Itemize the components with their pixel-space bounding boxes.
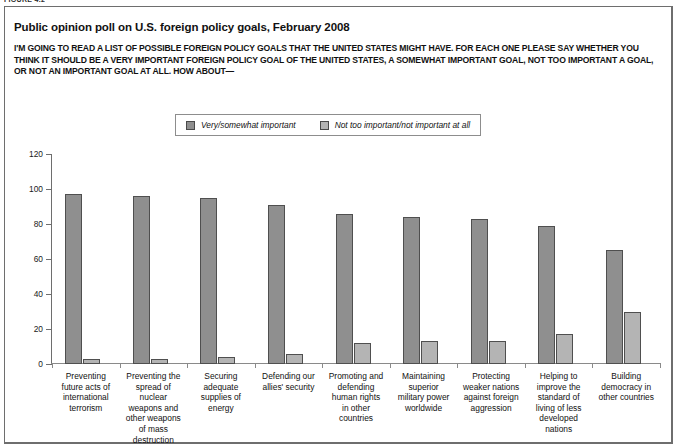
bar <box>200 198 217 364</box>
bar <box>624 312 641 365</box>
x-axis-category-label: Defending ourallies' security <box>251 371 327 392</box>
x-axis-category-label: Preventingfuture acts ofinternationalter… <box>48 371 124 413</box>
bar <box>83 359 100 364</box>
x-axis-category-label: Helping toimprove thestandard ofliving o… <box>521 371 597 435</box>
x-axis-category-label: Buildingdemocracy inother countries <box>588 371 664 403</box>
y-axis-tick-label: 40 <box>17 289 43 299</box>
x-axis-category-label: Securingadequatesupplies ofenergy <box>183 371 259 413</box>
bar <box>489 341 506 364</box>
bar <box>151 359 168 364</box>
bar <box>218 357 235 364</box>
chart-plot-area: 020406080100120 Preventingfuture acts of… <box>5 7 674 445</box>
y-axis-tick-label: 120 <box>17 149 43 159</box>
y-axis-tick-label: 80 <box>17 219 43 229</box>
bar-group <box>403 154 438 364</box>
x-axis-category-label: Preventing thespread ofnuclearweapons an… <box>116 371 192 445</box>
bar-group <box>538 154 573 364</box>
bar <box>286 354 303 365</box>
x-axis-tick <box>660 363 661 368</box>
y-axis-tick-label: 0 <box>17 359 43 369</box>
bar <box>133 196 150 364</box>
bar <box>606 250 623 364</box>
bar-group <box>268 154 303 364</box>
bar-group <box>200 154 235 364</box>
figure-tag: FIGURE 4.2 <box>4 0 45 3</box>
x-axis-category-label: Promoting anddefendinghuman rightsin oth… <box>318 371 394 424</box>
figure-card: Public opinion poll on U.S. foreign poli… <box>4 6 673 444</box>
chart-bars <box>52 154 660 364</box>
y-axis-tick-label: 20 <box>17 324 43 334</box>
bar <box>65 194 82 364</box>
bar-group <box>471 154 506 364</box>
bar-group <box>606 154 641 364</box>
bar <box>268 205 285 364</box>
x-axis-category-label: Protectingweaker nationsagainst foreigna… <box>453 371 529 413</box>
x-axis-labels: Preventingfuture acts ofinternationalter… <box>52 371 660 447</box>
bar-group <box>65 154 100 364</box>
bar <box>403 217 420 364</box>
bar-group <box>336 154 371 364</box>
bar <box>538 226 555 364</box>
y-axis-tick-label: 60 <box>17 254 43 264</box>
y-axis-tick-label: 100 <box>17 184 43 194</box>
bar <box>336 214 353 365</box>
bar <box>556 334 573 364</box>
bar <box>421 341 438 364</box>
bar-group <box>133 154 168 364</box>
bar <box>354 343 371 364</box>
bar <box>471 219 488 364</box>
x-axis-category-label: Maintainingsuperiormilitary powerworldwi… <box>386 371 462 413</box>
